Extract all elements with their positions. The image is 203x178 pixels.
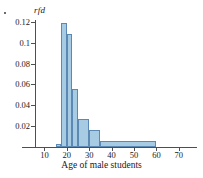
x-tick-label: 50 [124, 151, 144, 160]
x-tick-label: 40 [102, 151, 122, 160]
x-axis-line [22, 147, 197, 148]
y-axis-label: rfd [34, 5, 45, 15]
y-tick-mark [31, 22, 36, 23]
y-tick-mark [31, 64, 36, 65]
y-tick-label: 0.06 [0, 80, 30, 89]
y-tick-label: 0.08 [0, 60, 30, 69]
y-tick-mark [31, 105, 36, 106]
x-tick-label: 20 [57, 151, 77, 160]
y-tick-mark [31, 43, 36, 44]
y-tick-label: 0.02 [0, 122, 30, 131]
x-axis-label: Age of male students [0, 160, 203, 170]
y-tick-label: 0.1 [0, 39, 30, 48]
x-tick-label: 70 [169, 151, 189, 160]
histogram-bar [78, 119, 89, 147]
y-tick-label: 0.12 [0, 18, 30, 27]
y-tick-mark [31, 84, 36, 85]
y-tick-mark [31, 126, 36, 127]
histogram-figure: rfd 0.020.040.060.080.10.12 102030405060… [0, 0, 203, 178]
y-tick-label: 0.04 [0, 101, 30, 110]
bullet-marker [4, 12, 6, 14]
histogram-bar [89, 130, 100, 147]
x-tick-label: 10 [34, 151, 54, 160]
x-tick-label: 30 [79, 151, 99, 160]
histogram-bar [100, 141, 156, 147]
x-tick-label: 60 [146, 151, 166, 160]
